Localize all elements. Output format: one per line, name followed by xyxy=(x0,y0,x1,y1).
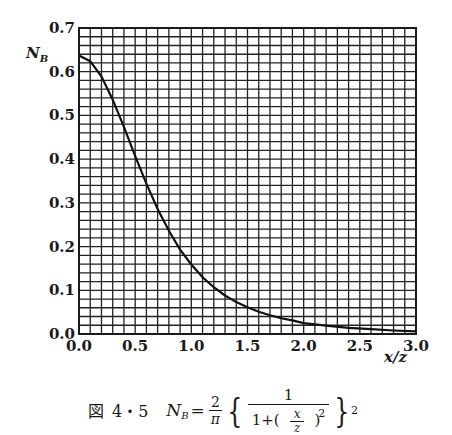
brace-open: { xyxy=(227,393,242,427)
x-tick-label: 2.0 xyxy=(291,337,317,355)
inner-fraction: 1 1+(xz)2 xyxy=(248,386,330,435)
y-tick-label: 0.3 xyxy=(49,194,75,212)
figure-number: 4・5 xyxy=(112,398,148,422)
y-tick-label: 0.7 xyxy=(49,19,75,37)
grid xyxy=(79,28,416,334)
figure-mark: 図 xyxy=(88,398,104,422)
y-tick-labels: 0.00.10.20.30.40.50.60.7 xyxy=(49,19,75,343)
y-tick-label: 0.5 xyxy=(49,106,75,124)
y-axis-label: NB xyxy=(25,44,48,64)
outer-exponent: 2 xyxy=(351,404,358,417)
x-tick-label: 2.5 xyxy=(347,337,373,355)
coefficient-fraction: 2 π xyxy=(209,394,222,427)
y-tick-label: 0.2 xyxy=(49,238,75,256)
y-tick-label: 0.6 xyxy=(49,63,75,81)
x-tick-label: 0.5 xyxy=(122,337,148,355)
formula-equals: = xyxy=(191,400,205,420)
formula-lhs: NB xyxy=(166,400,188,421)
y-tick-label: 0.1 xyxy=(49,281,75,299)
brace-close: } xyxy=(335,393,350,427)
x-tick-label: 1.0 xyxy=(178,337,204,355)
y-tick-label: 0.4 xyxy=(49,150,75,168)
x-tick-label: 1.5 xyxy=(234,337,260,355)
x-tick-label: 0.0 xyxy=(66,337,92,355)
figure-caption: 図 4・5 NB = 2 π { 1 1+(xz)2 } 2 xyxy=(88,386,358,435)
x-axis-label: x/z xyxy=(383,348,407,366)
x-tick-labels: 0.00.51.01.52.02.53.0 xyxy=(66,337,429,355)
